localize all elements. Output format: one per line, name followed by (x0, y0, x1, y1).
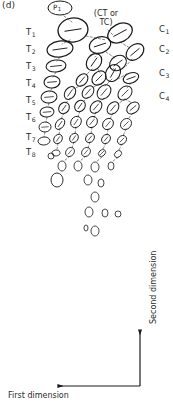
cell-ellipse (115, 211, 121, 217)
cell-division-tick (111, 105, 116, 111)
cell-division-tick (58, 121, 62, 126)
cell-outline (85, 207, 93, 217)
cell-ellipse (88, 98, 105, 115)
cell-ellipse (116, 134, 129, 147)
cell-ellipse (118, 116, 134, 132)
cell-ellipse (72, 98, 87, 114)
time-label-8: T8 (26, 148, 35, 157)
time-label-subscript: 4 (32, 82, 36, 89)
cell-ellipse (97, 148, 107, 158)
cell-division-tick (91, 58, 97, 66)
time-label-letter: T (26, 61, 31, 71)
cell-ellipse (91, 226, 99, 236)
cell-division-tick (68, 150, 72, 154)
cell-division-tick (94, 104, 99, 110)
time-label-subscript: 8 (32, 151, 36, 158)
cell-division-tick (45, 97, 54, 98)
cell-outline (58, 161, 66, 171)
time-label-subscript: 1 (32, 31, 36, 38)
time-label-letter: T (26, 78, 31, 88)
lineage-link (123, 129, 126, 136)
cell-division-tick (48, 82, 57, 83)
ct-tc-annotation: (CT or TC) (84, 9, 128, 27)
cell-division-tick (120, 138, 124, 142)
time-label-5: T5 (26, 96, 35, 105)
time-label-subscript: 2 (32, 48, 36, 55)
cell-outline (52, 149, 61, 156)
lineage-link (120, 42, 130, 48)
time-label-letter: T (26, 147, 31, 157)
cell-ellipse (91, 192, 99, 202)
cell-ellipse (40, 106, 55, 117)
cell-ellipse (122, 71, 140, 86)
time-label-letter: T (26, 95, 31, 105)
cell-division-tick (43, 112, 51, 113)
annotation-line-2: TC) (99, 18, 112, 27)
cell-outline (108, 162, 114, 170)
y-axis-label: Second dimension (150, 251, 158, 324)
annotation-line-1: (CT or (94, 9, 118, 18)
cell-ellipse (84, 114, 99, 130)
cell-division-tick (51, 65, 62, 66)
cell-division-tick (56, 137, 59, 142)
cell-division-tick (84, 150, 88, 154)
cell-ellipse (108, 162, 114, 170)
cell-division-tick (100, 151, 104, 155)
cell-division-tick (94, 43, 106, 47)
time-label-subscript: 7 (32, 136, 36, 143)
cell-ellipse (58, 161, 66, 171)
cell-outline (84, 225, 88, 231)
cell-division-tick (127, 76, 135, 79)
time-label-subscript: 6 (32, 116, 36, 123)
cell-outline (51, 173, 63, 187)
cell-division-tick (88, 136, 92, 140)
clone-label-subscript: 4 (165, 95, 169, 102)
cell-ellipse (62, 84, 78, 101)
cell-ellipse (102, 209, 108, 217)
cell-division-tick (114, 30, 127, 37)
panel-id-label: (d) (2, 1, 15, 10)
cell-division-tick (131, 48, 139, 55)
time-label-7: T7 (26, 133, 35, 142)
time-label-letter: T (26, 132, 31, 142)
x-axis-label: First dimension (8, 392, 69, 400)
time-label-6: T6 (26, 113, 35, 122)
cell-division-tick (90, 119, 94, 124)
cell-outline (91, 226, 99, 236)
cell-ellipse (113, 149, 123, 159)
cell-division-tick (122, 90, 128, 96)
time-label-1: T1 (26, 28, 35, 37)
cell-outline (91, 162, 99, 172)
clone-label-2: C2 (159, 45, 169, 54)
progenitor-subscript: 1 (58, 6, 61, 12)
cell-ellipse (41, 90, 58, 103)
cell-ellipse (52, 149, 61, 156)
cell-outline (38, 136, 51, 145)
cell-ellipse (91, 162, 99, 172)
cell-ellipse (84, 225, 88, 231)
clone-label-subscript: 3 (165, 72, 169, 79)
cell-division-tick (80, 77, 85, 83)
time-label-4: T4 (26, 79, 35, 88)
cell-division-tick (65, 29, 81, 31)
cell-ellipse (83, 51, 105, 74)
cell-ellipse (74, 161, 82, 171)
lineage-link (46, 117, 47, 122)
cell-ellipse (115, 83, 135, 103)
cell-ellipse (105, 99, 122, 116)
cell-ellipse (68, 132, 80, 145)
cell-division-tick (53, 48, 67, 50)
cell-ellipse (52, 133, 64, 146)
cell-division-tick (130, 106, 136, 111)
cell-ellipse (53, 117, 66, 131)
time-label-subscript: 5 (32, 99, 36, 106)
dimension-axes (58, 330, 140, 386)
cell-ellipse (85, 207, 93, 217)
cell-ellipse (84, 175, 92, 185)
lineage-link (44, 132, 45, 137)
cell-division-tick (106, 121, 110, 126)
time-label-letter: T (26, 44, 31, 54)
cell-outline (113, 149, 123, 159)
cell-ellipse (44, 75, 61, 88)
time-label-subscript: 3 (32, 65, 36, 72)
